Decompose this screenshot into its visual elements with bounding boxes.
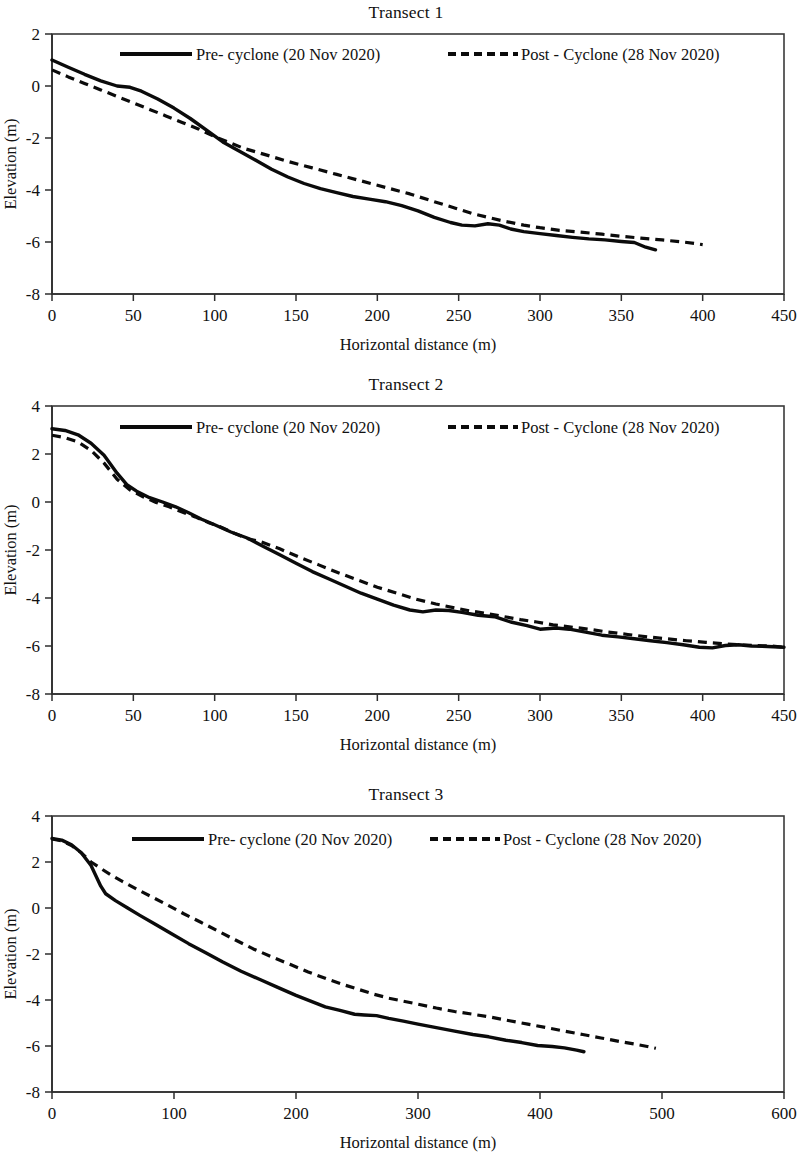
x-tick-label: 50	[125, 306, 142, 325]
series-line-post-cyclone	[52, 435, 784, 647]
series-line-pre-cyclone	[52, 60, 655, 250]
y-tick-label: 2	[32, 25, 41, 44]
y-tick-label: 0	[32, 899, 41, 918]
y-tick-label: -8	[26, 1083, 40, 1102]
x-tick-label: 100	[161, 1104, 187, 1123]
y-tick-label: -6	[26, 637, 40, 656]
x-tick-label: 50	[125, 706, 142, 725]
y-tick-label: -8	[26, 685, 40, 704]
x-tick-label: 350	[609, 306, 635, 325]
x-tick-label: 300	[527, 706, 553, 725]
y-axis-label: Elevation (m)	[1, 118, 20, 209]
x-tick-label: 400	[527, 1104, 553, 1123]
series-line-post-cyclone	[52, 839, 656, 1048]
x-tick-label: 300	[405, 1104, 431, 1123]
x-tick-label: 150	[283, 306, 309, 325]
x-tick-label: 100	[202, 706, 228, 725]
x-tick-label: 250	[446, 306, 472, 325]
chart-title-transect-1: Transect 1	[0, 2, 812, 23]
y-tick-label: -6	[26, 233, 40, 252]
series-line-pre-cyclone	[52, 429, 784, 648]
chart-canvas-transect-2: 420-2-4-6-8050100150200250300350400450Ho…	[0, 394, 812, 762]
plot-svg-transect-3: 420-2-4-6-80100200300400500600Horizontal…	[0, 804, 812, 1158]
x-tick-label: 450	[771, 706, 797, 725]
legend-label-pre-cyclone: Pre- cyclone (20 Nov 2020)	[196, 418, 380, 437]
plot-svg-transect-2: 420-2-4-6-8050100150200250300350400450Ho…	[0, 394, 812, 762]
y-tick-label: -2	[26, 541, 40, 560]
x-tick-label: 150	[283, 706, 309, 725]
x-tick-label: 0	[48, 1104, 57, 1123]
y-axis-label: Elevation (m)	[1, 504, 20, 595]
y-tick-label: -2	[26, 945, 40, 964]
x-tick-label: 400	[690, 306, 716, 325]
x-tick-label: 100	[202, 306, 228, 325]
y-tick-label: 0	[32, 493, 41, 512]
y-tick-label: 0	[32, 77, 41, 96]
legend-label-pre-cyclone: Pre- cyclone (20 Nov 2020)	[196, 45, 380, 64]
x-tick-label: 350	[609, 706, 635, 725]
legend-label-pre-cyclone: Pre- cyclone (20 Nov 2020)	[208, 830, 392, 849]
chart-canvas-transect-3: 420-2-4-6-80100200300400500600Horizontal…	[0, 804, 812, 1158]
y-tick-label: 4	[32, 807, 41, 826]
x-axis-label: Horizontal distance (m)	[340, 735, 497, 754]
x-tick-label: 200	[365, 306, 391, 325]
series-line-pre-cyclone	[52, 839, 584, 1052]
y-tick-label: -4	[26, 589, 41, 608]
x-axis-label: Horizontal distance (m)	[340, 1133, 497, 1152]
chart-canvas-transect-1: 20-2-4-6-8050100150200250300350400450Hor…	[0, 22, 812, 360]
figure-transect-profiles: Transect 1 20-2-4-6-80501001502002503003…	[0, 0, 812, 1158]
x-tick-label: 250	[446, 706, 472, 725]
x-tick-label: 500	[649, 1104, 675, 1123]
y-tick-label: -2	[26, 129, 40, 148]
x-tick-label: 600	[771, 1104, 797, 1123]
legend-label-post-cyclone: Post - Cyclone (28 Nov 2020)	[521, 418, 719, 437]
plot-svg-transect-1: 20-2-4-6-8050100150200250300350400450Hor…	[0, 22, 812, 360]
x-tick-label: 300	[527, 306, 553, 325]
x-tick-label: 0	[48, 306, 57, 325]
y-tick-label: -6	[26, 1037, 40, 1056]
legend-label-post-cyclone: Post - Cyclone (28 Nov 2020)	[521, 45, 719, 64]
y-tick-label: -4	[26, 181, 41, 200]
x-tick-label: 450	[771, 306, 797, 325]
plot-frame	[52, 406, 784, 694]
x-tick-label: 200	[365, 706, 391, 725]
x-tick-label: 200	[283, 1104, 309, 1123]
chart-panel-transect-3: Transect 3 420-2-4-6-8010020030040050060…	[0, 782, 812, 1158]
legend-label-post-cyclone: Post - Cyclone (28 Nov 2020)	[503, 830, 701, 849]
y-axis-label: Elevation (m)	[1, 908, 20, 999]
y-tick-label: -8	[26, 285, 40, 304]
chart-panel-transect-1: Transect 1 20-2-4-6-80501001502002503003…	[0, 0, 812, 360]
plot-frame	[52, 34, 784, 294]
plot-frame	[52, 816, 784, 1092]
y-tick-label: 2	[32, 445, 41, 464]
y-tick-label: 2	[32, 853, 41, 872]
x-tick-label: 400	[690, 706, 716, 725]
chart-title-transect-3: Transect 3	[0, 784, 812, 805]
y-tick-label: -4	[26, 991, 41, 1010]
x-tick-label: 0	[48, 706, 57, 725]
y-tick-label: 4	[32, 397, 41, 416]
chart-title-transect-2: Transect 2	[0, 374, 812, 395]
chart-panel-transect-2: Transect 2 420-2-4-6-8050100150200250300…	[0, 372, 812, 762]
x-axis-label: Horizontal distance (m)	[340, 335, 497, 354]
